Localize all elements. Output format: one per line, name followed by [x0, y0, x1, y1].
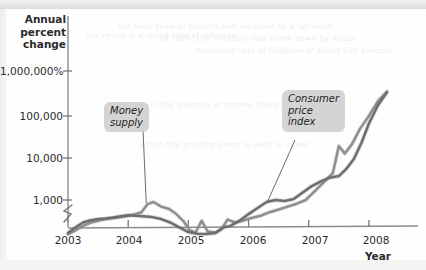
- y-tick-label-1000: 1,000: [0, 194, 63, 206]
- y-tick-label-1000000: 1,000,000%: [0, 65, 63, 77]
- y-axis-title-text-2: percent: [20, 26, 66, 38]
- y-axis-title: Annual percent change: [8, 13, 66, 51]
- x-tick-label-2006: 2006: [237, 234, 269, 246]
- callout-leader-lines: [143, 130, 295, 203]
- y-axis-title-line-2: percent: [8, 26, 66, 39]
- callout-cpi-line-1: Consumer: [288, 93, 339, 105]
- callout-money-supply-line-1: Money: [110, 105, 143, 117]
- y-tick-label-10000: 10,000: [0, 152, 63, 164]
- x-tick-label-2004: 2004: [113, 234, 145, 246]
- x-tick-label-2007: 2007: [299, 234, 331, 246]
- callout-consumer-price-index: Consumer price index: [282, 90, 345, 132]
- y-axis-title-line-1: Annual: [8, 13, 66, 26]
- callout-money-supply-line-2: supply: [110, 117, 143, 129]
- x-tick-label-2003: 2003: [52, 234, 84, 246]
- y-axis-title-line-3: change: [8, 38, 66, 51]
- y-axis-title-text-3: change: [23, 38, 66, 50]
- callout-cpi-line-2: price: [288, 105, 339, 117]
- figure-hyperinflation-chart: the next several months and returned to …: [0, 0, 426, 270]
- y-axis-title-text-1: Annual: [25, 13, 66, 25]
- y-tick-label-100000: 100,000: [0, 110, 63, 122]
- callout-cpi-line-3: index: [288, 116, 339, 128]
- callout-money-supply: Money supply: [104, 102, 149, 132]
- x-tick-label-2008: 2008: [360, 234, 392, 246]
- x-axis-title: Year: [358, 250, 398, 263]
- x-tick-label-2005: 2005: [175, 234, 207, 246]
